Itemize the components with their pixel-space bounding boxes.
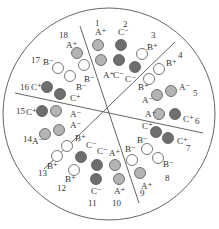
slot-number: 8	[165, 173, 170, 183]
slot-number: 15	[16, 106, 26, 116]
conductor-label: A⁺	[109, 148, 120, 158]
conductor-label: C⁺	[70, 93, 81, 103]
slot-number: 1	[95, 18, 100, 28]
conductor-label: B⁺	[147, 42, 158, 52]
conductor-phase-c-slot-11	[91, 174, 102, 185]
conductor-label: A⁺	[66, 40, 77, 50]
conductor-phase-a-slot-1	[96, 55, 107, 66]
conductor-phase-a-slot-10	[114, 174, 125, 185]
conductor-label: A⁻	[179, 82, 190, 92]
slot-number: 4	[178, 50, 183, 60]
conductor-phase-c-slot-16	[55, 89, 66, 100]
conductor-label: C⁻	[91, 186, 102, 196]
winding-diagram: A⁺A⁺C⁻C⁻B⁺C⁻B⁺B⁺A⁻A⁻A⁻C⁺C⁺C⁺B⁻B⁻B⁻A⁺A⁺A⁺…	[0, 0, 219, 229]
slot-number: 10	[112, 198, 122, 208]
slot-number: 2	[123, 19, 128, 29]
conductor-phase-b-slot-8	[142, 144, 153, 155]
slot-number: 9	[140, 188, 145, 198]
conductor-phase-a-slot-1	[93, 40, 104, 51]
conductor-phase-b-slot-18	[79, 60, 90, 71]
conductor-label: B⁺	[138, 82, 149, 92]
conductor-phase-b-slot-3	[137, 49, 148, 60]
conductor-label: B⁻	[163, 159, 174, 169]
conductor-label: A⁻	[142, 95, 153, 105]
slot-number: 16	[20, 82, 30, 92]
slot-number: 11	[88, 198, 97, 208]
conductor-phase-c-slot-2	[114, 55, 125, 66]
conductor-phase-a-slot-15	[51, 106, 62, 117]
conductor-label: C⁺	[183, 114, 194, 124]
slot-number: 7	[186, 143, 191, 153]
conductor-phase-c-slot-16	[42, 82, 53, 93]
slot-number: 13	[38, 168, 48, 178]
conductor-phase-a-slot-9	[135, 168, 146, 179]
conductor-phase-c-slot-3	[130, 62, 141, 73]
conductor-phase-b-slot-9	[127, 155, 138, 166]
conductor-label: B⁻	[43, 57, 54, 67]
conductor-label: A⁻	[145, 109, 156, 119]
conductor-phase-c-slot-12	[76, 152, 87, 163]
conductor-phase-b-slot-13	[62, 141, 73, 152]
conductor-phase-b-slot-4	[154, 64, 165, 75]
conductor-label: B⁺	[166, 58, 177, 68]
slot-number: 14	[23, 134, 33, 144]
slot-number: 12	[57, 183, 66, 193]
slot-number: 6	[195, 116, 200, 126]
conductor-label: C⁻	[113, 70, 124, 80]
conductor-label: B⁺	[65, 174, 76, 184]
conductor-label: C⁺	[31, 82, 42, 92]
conductor-label: C⁻	[125, 74, 136, 84]
conductor-phase-b-slot-13	[52, 151, 63, 162]
conductor-label: B⁻	[84, 74, 95, 84]
conductor-phase-b-slot-8	[153, 153, 164, 164]
conductor-label: B⁺	[75, 133, 86, 143]
conductor-label: B⁻	[125, 144, 136, 154]
conductor-label: A⁻	[70, 109, 81, 119]
conductor-phase-a-slot-10	[110, 160, 121, 171]
slot-number: 5	[193, 88, 198, 98]
conductor-phase-c-slot-6	[170, 109, 181, 120]
conductor-label: B⁻	[137, 135, 148, 145]
conductor-phase-b-slot-17	[65, 71, 76, 82]
conductor-phase-c-slot-15	[37, 106, 48, 117]
conductor-phase-c-slot-7	[163, 133, 174, 144]
conductor-label: A⁻	[70, 120, 81, 130]
conductor-label: B⁺	[47, 161, 58, 171]
conductor-label: A⁺	[95, 27, 106, 37]
conductor-phase-b-slot-17	[53, 63, 64, 74]
conductor-label: A⁺	[114, 186, 125, 196]
conductor-phase-a-slot-5	[166, 86, 177, 97]
conductor-phase-c-slot-2	[116, 40, 127, 51]
conductor-label: C⁺	[142, 121, 153, 131]
conductor-label: C⁺	[26, 107, 37, 117]
slot-number: 3	[151, 30, 156, 40]
conductor-label: C⁻	[86, 140, 97, 150]
divider-line	[80, 26, 139, 203]
conductor-label: C⁻	[97, 146, 108, 156]
slot-number: 17	[31, 55, 41, 65]
conductor-label: A⁻	[32, 136, 43, 146]
slot-number: 18	[59, 30, 69, 40]
conductor-phase-c-slot-11	[92, 160, 103, 171]
conductor-phase-a-slot-14	[54, 125, 65, 136]
